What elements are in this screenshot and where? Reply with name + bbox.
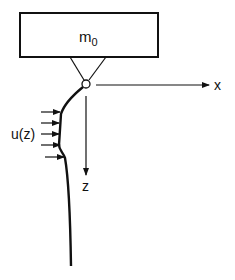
pivot-icon — [82, 80, 90, 88]
current-label: u(z) — [11, 126, 35, 142]
z-axis-label: z — [82, 178, 89, 194]
suspension-left — [70, 57, 84, 80]
deflected-cable — [59, 87, 83, 266]
x-axis-label: x — [214, 77, 221, 93]
pendulum-diagram: m0 x z u(z) — [0, 0, 235, 280]
suspension-right — [89, 57, 106, 80]
